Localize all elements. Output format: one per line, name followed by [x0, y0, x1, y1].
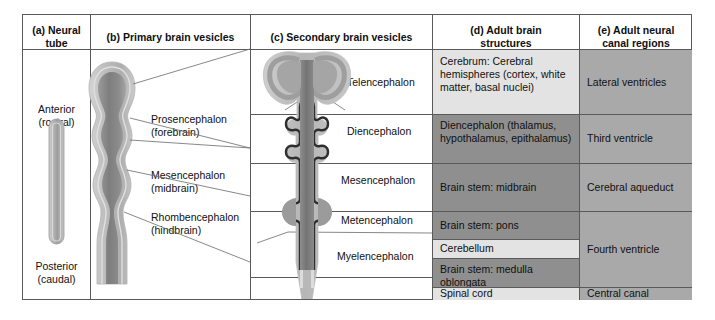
d-rowline-2 — [433, 163, 579, 164]
diencephalon-text: Diencephalon — [347, 125, 411, 137]
prosencephalon-line1: Prosencephalon — [151, 113, 251, 126]
mesencephalon-primary-line2: (midbrain) — [151, 182, 251, 195]
primary-vesicle-label-prosencephalon: Prosencephalon (forebrain) — [151, 113, 251, 139]
brain-development-diagram: (a) Neural tube (b) Primary brain vesicl… — [0, 0, 715, 320]
pons-text: Brain stem: pons — [440, 219, 519, 232]
anterior-line1: Anterior — [23, 103, 90, 116]
adult-structure-cell-midbrain: Brain stem: midbrain — [433, 163, 579, 211]
rhombencephalon-line1: Rhombencephalon — [151, 211, 256, 224]
secondary-vesicle-label-telencephalon: Telencephalon — [347, 76, 415, 89]
primary-vesicle-label-rhombencephalon: Rhombencephalon (hindbrain) — [151, 211, 256, 237]
c-rowline-3 — [251, 211, 432, 212]
neural-tube-anterior-label: Anterior (rostral) — [23, 103, 90, 129]
e-rowline-2 — [580, 163, 692, 164]
rhombencephalon-line2: (hindbrain) — [151, 224, 256, 237]
diencephalon-structure-text: Diencephalon (thalamus, hypothalamus, ep… — [440, 119, 571, 144]
column-header-d-line2: structures — [433, 37, 579, 50]
e-rowline-4 — [580, 287, 692, 288]
third-ventricle-text: Third ventricle — [587, 132, 653, 145]
central-canal-text: Central canal — [587, 287, 649, 300]
adult-structure-cell-medulla: Brain stem: medulla oblongata — [433, 258, 579, 287]
adult-structure-cell-pons: Brain stem: pons — [433, 211, 579, 239]
divider-a-b — [90, 15, 91, 300]
column-header-e-line2: canal regions — [580, 37, 692, 50]
medulla-text: Brain stem: medulla oblongata — [440, 263, 533, 288]
canal-cell-fourth-ventricle: Fourth ventricle — [580, 211, 692, 287]
anterior-line2: (rostral) — [23, 116, 90, 129]
secondary-vesicle-label-metencephalon: Metencephalon — [341, 214, 413, 227]
posterior-line2: (caudal) — [23, 273, 90, 286]
column-header-d-line1: (d) Adult brain — [433, 24, 579, 37]
d-rowline-4 — [433, 239, 579, 240]
primary-vesicle-label-mesencephalon: Mesencephalon (midbrain) — [151, 169, 251, 195]
column-header-e: (e) Adult neural canal regions — [580, 24, 692, 50]
canal-cell-lateral-ventricles: Lateral ventricles — [580, 50, 692, 114]
column-header-b: (b) Primary brain vesicles — [91, 31, 250, 44]
secondary-vesicle-label-myelencephalon: Myelencephalon — [337, 250, 413, 263]
c-rowline-1 — [251, 114, 432, 115]
telencephalon-text: Telencephalon — [347, 76, 415, 88]
d-rowline-1 — [433, 114, 579, 115]
spinal-cord-text: Spinal cord — [440, 287, 493, 300]
column-header-a-line2: tube — [23, 37, 90, 50]
column-header-d: (d) Adult brain structures — [433, 24, 579, 50]
c-rowline-4 — [251, 277, 432, 278]
secondary-vesicle-label-diencephalon: Diencephalon — [347, 125, 411, 138]
column-header-a: (a) Neural tube — [23, 24, 90, 50]
mesencephalon-text: Mesencephalon — [341, 174, 415, 186]
metencephalon-text: Metencephalon — [341, 214, 413, 226]
column-header-b-line1: (b) Primary brain vesicles — [91, 31, 250, 44]
diagram-frame: (a) Neural tube (b) Primary brain vesicl… — [22, 14, 692, 300]
d-rowline-5 — [433, 258, 579, 259]
canal-cell-cerebral-aqueduct: Cerebral aqueduct — [580, 163, 692, 211]
column-header-c: (c) Secondary brain vesicles — [251, 31, 432, 44]
prosencephalon-line2: (forebrain) — [151, 126, 251, 139]
d-rowline-6 — [433, 287, 579, 288]
myelencephalon-text: Myelencephalon — [337, 250, 413, 262]
fourth-ventricle-text: Fourth ventricle — [587, 243, 659, 256]
canal-cell-third-ventricle: Third ventricle — [580, 114, 692, 163]
divider-b-c — [250, 15, 251, 300]
column-header-c-line1: (c) Secondary brain vesicles — [251, 31, 432, 44]
e-rowline-3 — [580, 211, 692, 212]
secondary-vesicle-label-mesencephalon: Mesencephalon — [341, 174, 415, 187]
e-rowline-1 — [580, 114, 692, 115]
cerebral-aqueduct-text: Cerebral aqueduct — [587, 181, 673, 194]
column-header-e-line1: (e) Adult neural — [580, 24, 692, 37]
lateral-ventricles-text: Lateral ventricles — [587, 76, 666, 89]
neural-tube-posterior-label: Posterior (caudal) — [23, 260, 90, 286]
d-rowline-3 — [433, 211, 579, 212]
canal-cell-central-canal: Central canal — [580, 287, 692, 300]
adult-structure-cell-spinal-cord: Spinal cord — [433, 287, 579, 300]
cerebellum-text: Cerebellum — [440, 242, 494, 255]
midbrain-text: Brain stem: midbrain — [440, 181, 536, 194]
adult-structure-cell-diencephalon: Diencephalon (thalamus, hypothalamus, ep… — [433, 114, 579, 163]
adult-structure-cell-cerebellum: Cerebellum — [433, 239, 579, 258]
cerebrum-text: Cerebrum: Cerebral hemispheres (cortex, … — [440, 55, 565, 93]
c-rowline-2 — [251, 163, 432, 164]
column-header-a-line1: (a) Neural — [23, 24, 90, 37]
mesencephalon-primary-line1: Mesencephalon — [151, 169, 251, 182]
posterior-line1: Posterior — [23, 260, 90, 273]
adult-structure-cell-cerebrum: Cerebrum: Cerebral hemispheres (cortex, … — [433, 50, 579, 114]
